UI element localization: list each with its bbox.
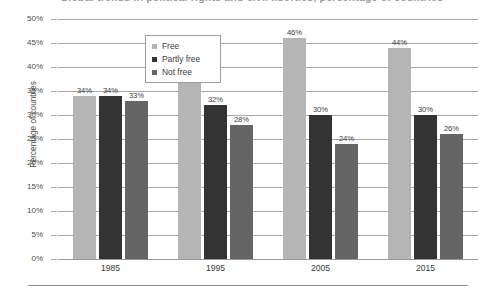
- y-tick-mark: [51, 259, 57, 260]
- bar-value-label: 32%: [208, 95, 223, 104]
- y-tick-mark: [51, 67, 57, 68]
- y-tick-mark: [51, 91, 57, 92]
- bar-group: 44%30%26%: [373, 19, 478, 259]
- legend-label-not-free: Not free: [162, 68, 192, 76]
- legend-label-free: Free: [162, 42, 179, 50]
- y-tick-mark: [51, 43, 57, 44]
- bar-value-label: 26%: [444, 124, 459, 133]
- y-tick-mark: [51, 139, 57, 140]
- bar[interactable]: 40%: [178, 67, 201, 259]
- bar[interactable]: 30%: [414, 115, 437, 259]
- y-tick-mark: [51, 19, 57, 20]
- y-tick-label: 15%: [3, 182, 43, 191]
- legend-swatch-partly-free: [152, 57, 157, 62]
- x-axis-label: 1995: [163, 263, 268, 273]
- legend-swatch-not-free: [152, 70, 157, 75]
- footer-divider: [28, 285, 468, 286]
- x-axis-label: 2015: [373, 263, 478, 273]
- y-axis-title: Percentage of countries: [29, 50, 38, 200]
- y-tick-label: 25%: [3, 134, 43, 143]
- bar[interactable]: 33%: [125, 101, 148, 259]
- bar-value-label: 46%: [287, 28, 302, 37]
- bar-value-label: 34%: [77, 86, 92, 95]
- y-tick-mark: [51, 235, 57, 236]
- y-tick-label: 30%: [3, 110, 43, 119]
- y-tick-mark: [51, 163, 57, 164]
- y-tick-label: 5%: [3, 230, 43, 239]
- y-tick-label: 10%: [3, 206, 43, 215]
- bar[interactable]: 26%: [440, 134, 463, 259]
- y-tick-mark: [51, 115, 57, 116]
- bar[interactable]: 44%: [388, 48, 411, 259]
- bar[interactable]: 24%: [335, 144, 358, 259]
- y-tick-label: 0%: [3, 254, 43, 263]
- y-tick-mark: [51, 211, 57, 212]
- bar-value-label: 30%: [313, 105, 328, 114]
- bar[interactable]: 30%: [309, 115, 332, 259]
- bar[interactable]: 46%: [283, 38, 306, 259]
- legend-item-free[interactable]: Free: [152, 40, 220, 53]
- y-tick-label: 45%: [3, 38, 43, 47]
- bar-value-label: 30%: [418, 105, 433, 114]
- x-axis-label: 1985: [58, 263, 163, 273]
- y-tick-label: 35%: [3, 86, 43, 95]
- legend-label-partly-free: Partly free: [162, 55, 200, 63]
- bar-value-label: 44%: [392, 38, 407, 47]
- bar-value-label: 33%: [129, 91, 144, 100]
- x-axis-label: 2005: [268, 263, 373, 273]
- gridline: [58, 259, 478, 260]
- y-tick-mark: [51, 187, 57, 188]
- bar-value-label: 24%: [339, 134, 354, 143]
- legend-item-partly-free[interactable]: Partly free: [152, 53, 220, 66]
- chart-legend: Free Partly free Not free: [145, 35, 221, 83]
- plot-area: 50%45%40%35%30%25%20%15%10%5%0% 34%34%33…: [58, 19, 478, 259]
- bar-value-label: 28%: [234, 115, 249, 124]
- y-tick-label: 20%: [3, 158, 43, 167]
- bar[interactable]: 34%: [73, 96, 96, 259]
- y-tick-label: 40%: [3, 62, 43, 71]
- legend-item-not-free[interactable]: Not free: [152, 66, 220, 79]
- legend-swatch-free: [152, 44, 157, 49]
- bar[interactable]: 32%: [204, 105, 227, 259]
- chart-title-fragment: Global trends in political rights and ci…: [60, 0, 460, 3]
- bar[interactable]: 28%: [230, 125, 253, 259]
- bar-chart: Global trends in political rights and ci…: [0, 0, 489, 296]
- bar[interactable]: 34%: [99, 96, 122, 259]
- y-tick-label: 50%: [3, 14, 43, 23]
- bar-value-label: 34%: [103, 86, 118, 95]
- bar-group: 46%30%24%: [268, 19, 373, 259]
